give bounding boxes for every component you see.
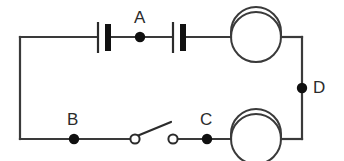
- circuit-schematic-svg: [0, 0, 344, 161]
- battery-cell-1: [98, 22, 111, 53]
- lamp-top: [231, 7, 281, 62]
- node-dot-b: [69, 134, 79, 144]
- circuit-diagram: A B C D: [0, 0, 344, 161]
- label-a: A: [134, 9, 145, 26]
- label-b: B: [67, 111, 78, 128]
- node-dot-c: [202, 134, 212, 144]
- lamp-top-envelope: [231, 12, 281, 62]
- label-d: D: [313, 79, 325, 96]
- lamp-bottom: [231, 109, 281, 161]
- switch-terminal-left[interactable]: [130, 134, 139, 143]
- node-dot-a: [135, 32, 145, 42]
- node-dot-d: [297, 83, 307, 93]
- circuit-wires: [20, 37, 302, 139]
- battery-cell-2-short-plate: [180, 24, 186, 51]
- battery-cell-2: [173, 22, 186, 53]
- label-c: C: [200, 111, 212, 128]
- switch-terminal-right[interactable]: [168, 134, 177, 143]
- switch-open[interactable]: [130, 122, 177, 144]
- battery-cell-1-short-plate: [105, 24, 111, 51]
- lamp-bottom-envelope: [231, 114, 281, 161]
- switch-lever[interactable]: [137, 122, 171, 136]
